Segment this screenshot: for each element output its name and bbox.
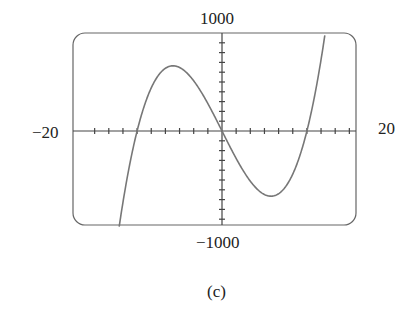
viewing-window-frame <box>73 33 356 225</box>
x-min-label: −20 <box>32 124 59 141</box>
y-min-label: −1000 <box>196 234 240 251</box>
chart-canvas <box>0 0 416 321</box>
x-max-label: 20 <box>378 120 395 137</box>
y-max-label: 1000 <box>200 10 234 27</box>
axes <box>73 33 356 225</box>
figure-caption: (c) <box>207 283 226 300</box>
